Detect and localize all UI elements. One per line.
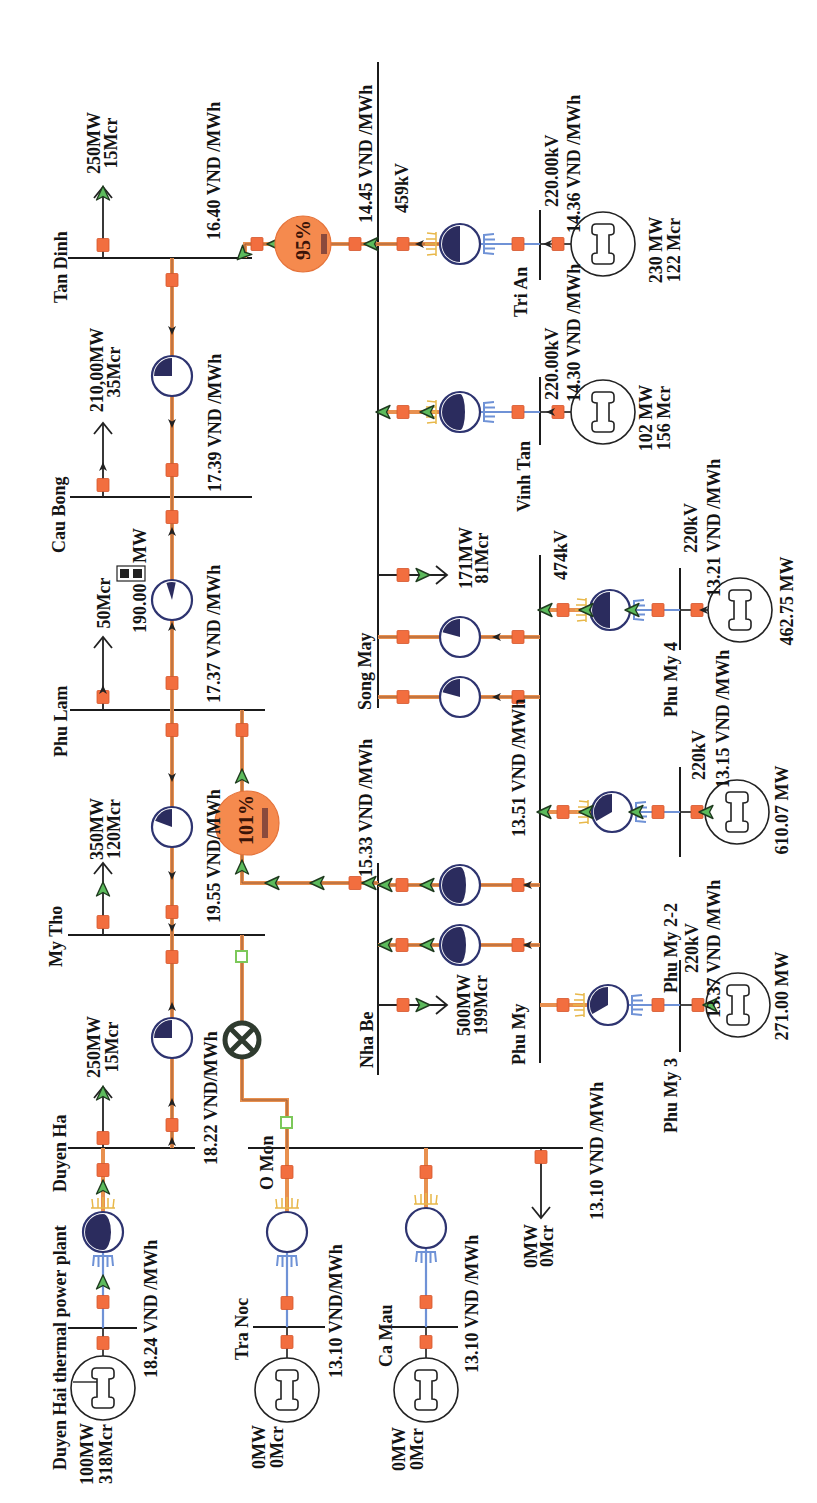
- loading-bar-icon: [321, 234, 327, 254]
- transformer-icon-nha-be-2: [440, 925, 480, 965]
- price-phu-my: 13.51 VND /MWh: [509, 699, 529, 837]
- transformer-icon-phu-my-4: [590, 590, 630, 630]
- transformer-icon-duyen-hai: [83, 1212, 123, 1252]
- gen-mw-duyen-hai: 100MW: [77, 1423, 97, 1485]
- voltage-phu-my-4: 220kV: [681, 503, 701, 553]
- breaker-icon: [97, 239, 109, 252]
- breaker-icon: [396, 939, 408, 952]
- gen-mvar-vinh-tan: 156 Mcr: [654, 386, 674, 450]
- breaker-icon: [166, 511, 178, 524]
- breaker-icon: [692, 999, 704, 1012]
- flow-value-phu-lam: 190.00: [130, 584, 150, 634]
- breaker-icon: [349, 238, 361, 251]
- breaker-icon: [281, 1166, 293, 1179]
- breaker-icon: [97, 479, 109, 492]
- breaker-icon: [512, 939, 524, 952]
- breaker-icon: [97, 1296, 109, 1309]
- breaker-icon: [512, 879, 524, 892]
- gen-mw-phu-my-3: 271.00 MW: [772, 952, 792, 1041]
- price-tri-an: 14.36 VND /MWh: [564, 95, 584, 233]
- generator-icon-phu-my-2-2: [705, 780, 769, 844]
- load-mvar-tan-dinh: 15Mcr: [101, 118, 121, 169]
- breaker-icon: [557, 604, 569, 617]
- breaker-icon: [166, 724, 178, 737]
- load-mw-duyen-ha: 250MW: [84, 1016, 104, 1078]
- bus-label-duyen-ha: Duyen Ha: [50, 1114, 70, 1192]
- bus-label-phu-lam: Phu Lam: [51, 685, 71, 757]
- bus-label-o-mon: O Mon: [257, 1135, 277, 1190]
- bus-label-phu-my-3: Phu My 3: [661, 1058, 681, 1133]
- transformer-icon-song-may-1: [440, 617, 480, 657]
- flow-unit-phu-lam: MW: [130, 528, 150, 563]
- bus-label-ca-mau: Ca Mau: [376, 1305, 396, 1368]
- voltage-song-may: 459kV: [392, 163, 412, 213]
- line-loading-95: 95%: [275, 216, 331, 272]
- breaker-icon: [397, 999, 409, 1012]
- open-switch-icon: [236, 951, 247, 962]
- breaker-icon: [236, 724, 248, 737]
- edit-box-icon: [117, 566, 145, 581]
- load-mvar-my-tho: 120Mcr: [104, 799, 124, 859]
- price-phu-my-4: 13.21 VND /MWh: [704, 459, 724, 597]
- generator-icon-tra-noc: [255, 1358, 319, 1422]
- load-mvar-song-may: 81Mcr: [472, 533, 492, 584]
- breaker-icon: [652, 604, 664, 617]
- breaker-icon: [420, 1296, 432, 1309]
- breaker-icon: [552, 238, 564, 251]
- breaker-icon: [251, 238, 263, 251]
- generator-icon-ca-mau: [394, 1358, 458, 1422]
- breaker-icon: [557, 806, 569, 819]
- breaker-icon: [420, 1336, 432, 1349]
- flow-arrows: [97, 186, 718, 1289]
- voltage-phu-my-3: 220kV: [682, 923, 702, 973]
- phase-shifter-icon: [225, 1023, 259, 1057]
- transformer-icon-vinh-tan: [440, 392, 480, 432]
- price-my-tho: 19.55 VND/MWh: [204, 789, 224, 923]
- breaker-icon: [166, 274, 178, 287]
- breaker-icon: [535, 1151, 547, 1164]
- loading-bar-icon: [262, 808, 268, 838]
- bus-label-vinh-tan: Vinh Tan: [514, 441, 534, 512]
- price-cau-bong: 17.39 VND /MWh: [205, 354, 225, 492]
- gen-mw-vinh-tan: 102 MW: [636, 385, 656, 452]
- breaker-icon: [552, 406, 564, 419]
- bus-label-phu-my-4: Phu My 4: [661, 642, 681, 717]
- breaker-icon: [420, 1166, 432, 1179]
- breaker-icon: [97, 1132, 109, 1145]
- price-phu-my-3: 13.37 VND /MWh: [704, 880, 724, 1018]
- breaker-icon: [397, 406, 409, 419]
- breaker-icon: [396, 879, 408, 892]
- bus-label-tra-noc: Tra Noc: [232, 1298, 252, 1360]
- breaker-icon: [166, 906, 178, 919]
- breaker-icon: [512, 406, 524, 419]
- price-duyen-ha: 18.22 VND/MWh: [201, 1031, 221, 1165]
- voltage-phu-my-2-2: 220kV: [689, 730, 709, 780]
- bus-label-phu-my-2-2: Phu My 2-2: [661, 903, 681, 993]
- transformer-icon-phu-my-2-2: [592, 792, 632, 832]
- gen-mvar-duyen-hai: 318Mcr: [96, 1424, 116, 1484]
- price-ca-mau: 13.10 VND /MWh: [462, 1235, 482, 1373]
- voltage-tri-an: 220.00kV: [542, 134, 562, 207]
- price-vinh-tan: 14.30 VND /MWh: [564, 264, 584, 402]
- price-phu-lam: 17.37 VND /MWh: [204, 565, 224, 703]
- breaker-icon: [281, 1297, 293, 1310]
- bus-label-nha-be: Nha Be: [357, 1011, 377, 1068]
- bus-label-tri-an: Tri An: [511, 267, 531, 317]
- voltage-vinh-tan: 220.00kV: [542, 327, 562, 400]
- bus-label-phu-my: Phu My: [509, 1003, 529, 1065]
- transformer-icon-nha-be-1: [440, 865, 480, 905]
- gen-mw-phu-my-4: 462.75 MW: [777, 557, 797, 646]
- breaker-icon: [512, 631, 524, 644]
- price-duyen-hai: 18.24 VND /MWh: [141, 1240, 161, 1378]
- line-loading-101: 101%: [215, 791, 279, 855]
- breaker-icon: [349, 877, 361, 890]
- breaker-icon: [397, 691, 409, 704]
- generator-labels: 100MW 318Mcr 0MW 0Mcr 0MW 0Mcr 230 MW 12…: [77, 217, 797, 1485]
- load-mvar-duyen-ha: 15Mcr: [102, 1022, 122, 1073]
- price-song-may: 14.45 VND /MWh: [356, 85, 376, 223]
- loading-percent-label: 101%: [235, 795, 257, 845]
- transformer-icon: [152, 356, 192, 396]
- price-labels: 16.40 VND /MWh 17.39 VND /MWh 17.37 VND …: [141, 85, 733, 1378]
- breaker-icon: [97, 1164, 109, 1177]
- price-phu-my-2-2: 13.15 VND /MWh: [713, 650, 733, 788]
